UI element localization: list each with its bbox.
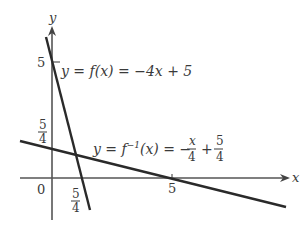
svg-text:y = f−1(x) = −: y = f−1(x) = − bbox=[92, 140, 191, 157]
x-axis-label: x bbox=[292, 170, 300, 185]
f-inverse-label-mid: (x) = − bbox=[140, 141, 191, 157]
f-inverse-frac1-den: 4 bbox=[188, 150, 196, 164]
f-inverse-label-sup: −1 bbox=[127, 140, 140, 150]
y-tick-label-5-4-num: 5 bbox=[39, 118, 47, 132]
f-inverse-frac2-num: 5 bbox=[216, 134, 224, 148]
y-tick-label-5: 5 bbox=[37, 55, 45, 70]
f-inverse-plus: + bbox=[201, 141, 213, 157]
y-tick-label-5-4-den: 4 bbox=[39, 132, 47, 146]
x-tick-label-5-4-den: 4 bbox=[72, 201, 80, 215]
f-inverse-label-prefix: y = f bbox=[92, 141, 130, 157]
f-equation-label: y = f(x) = −4x + 5 bbox=[60, 63, 192, 79]
f-inverse-equation-label: y = f−1(x) = − x 4 + 5 4 bbox=[92, 134, 224, 164]
f-inverse-frac1-num: x bbox=[189, 134, 196, 148]
x-tick-label-5: 5 bbox=[168, 181, 176, 196]
y-axis-label: y bbox=[48, 10, 57, 25]
x-tick-label-5-4-num: 5 bbox=[72, 187, 80, 201]
f-inverse-frac2-den: 4 bbox=[216, 150, 224, 164]
graph-canvas: y x 0 5 5 4 5 4 5 y = f(x) = −4x + 5 y =… bbox=[0, 0, 303, 237]
origin-label: 0 bbox=[37, 182, 45, 197]
